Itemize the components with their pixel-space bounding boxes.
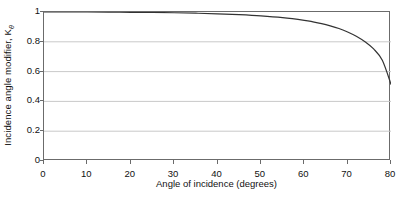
x-tick-mark [43, 160, 44, 164]
y-tick-label: 0.2 [10, 125, 40, 135]
x-tick-mark [260, 160, 261, 164]
chart-canvas [44, 12, 391, 161]
x-tick-mark [303, 160, 304, 164]
x-tick-mark [130, 160, 131, 164]
chart-figure: Incidence angle modifier, Kθ 00.20.40.60… [0, 0, 413, 202]
gridlines [44, 42, 391, 131]
plot-area [43, 11, 390, 160]
x-axis-tick-labels: 01020304050607080 [0, 163, 413, 177]
y-tick-label: 0.6 [10, 66, 40, 76]
x-tick-mark [86, 160, 87, 164]
y-tick-label: 1 [10, 6, 40, 16]
x-tick-mark [217, 160, 218, 164]
data-series-group [44, 12, 391, 84]
x-tick-mark [390, 160, 391, 164]
x-tick-mark [173, 160, 174, 164]
y-tick-label: 0.4 [10, 95, 40, 105]
x-axis-title: Angle of incidence (degrees) [43, 178, 390, 189]
x-tick-mark [347, 160, 348, 164]
data-line [44, 12, 391, 84]
y-tick-label: 0.8 [10, 36, 40, 46]
